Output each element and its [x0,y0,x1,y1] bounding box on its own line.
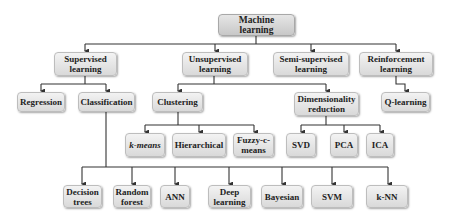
node-label: ANN [165,192,185,202]
node-bayesian: Bayesian [261,185,303,208]
node-label: Supervised learning [64,54,107,74]
node-label: Semi-supervised learning [280,54,343,74]
node-label: Machine learning [221,15,292,35]
node-label: Random forest [116,187,149,207]
node-label: Fuzzy-c- means [237,135,270,155]
node-label: SVM [322,192,342,202]
node-dimensionality-reduction: Dimensionality reduction [294,92,359,116]
node-k-means: k-means [125,133,165,157]
node-label: Clustering [157,97,198,107]
node-k-nn: k-NN [366,185,408,208]
node-label: Decision trees [66,187,99,207]
node-unsupervised-learning: Unsupervised learning [182,52,248,76]
node-reinforcement-learning: Reinforcement learning [359,52,433,76]
node-label: Bayesian [265,192,300,202]
node-fuzzy-c-means: Fuzzy-c- means [233,133,274,157]
node-q-learning: Q-learning [381,92,430,112]
node-label: Classification [81,97,133,107]
node-label: Q-learning [385,97,427,107]
node-supervised-learning: Supervised learning [54,52,117,76]
node-hierarchical: Hierarchical [172,133,226,157]
node-label: PCA [335,140,354,150]
node-decision-trees: Decision trees [63,185,102,208]
node-label: Dimensionality reduction [297,94,355,114]
node-label: ICA [372,140,389,150]
node-ann: ANN [160,185,190,208]
node-semi-supervised-learning: Semi-supervised learning [273,52,349,76]
node-classification: Classification [78,92,135,112]
node-label: Hierarchical [175,140,223,150]
node-label: Regression [20,97,62,107]
node-machine-learning: Machine learning [218,14,295,36]
node-svd: SVD [286,133,316,157]
node-random-forest: Random forest [113,185,151,208]
node-pca: PCA [330,133,358,157]
node-svm: SVM [311,185,353,208]
node-label: k-NN [376,192,397,202]
node-ica: ICA [366,133,394,157]
node-label: k-means [129,140,161,150]
node-deep-learning: Deep learning [208,185,251,208]
node-label: Unsupervised learning [189,54,242,74]
node-label: Deep learning [213,187,245,207]
node-label: SVD [292,140,310,150]
node-label: Reinforcement learning [368,54,425,74]
node-regression: Regression [17,92,65,112]
node-clustering: Clustering [152,92,203,112]
